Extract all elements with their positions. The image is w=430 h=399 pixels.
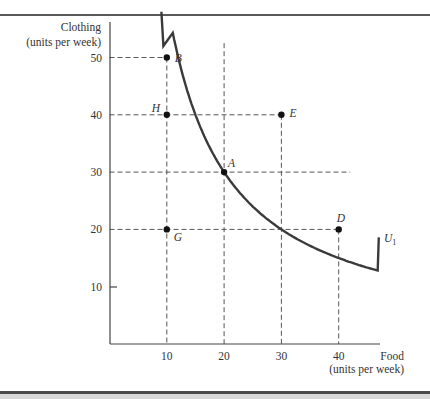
y-axis-title: Clothing (units per week) <box>26 21 101 49</box>
x-tick-label-10: 10 <box>161 350 173 362</box>
point-d-marker <box>336 226 342 232</box>
indifference-curve-u1 <box>161 12 378 271</box>
data-points: ABDEGH <box>151 52 346 244</box>
x-tick-label-20: 20 <box>218 350 230 362</box>
y-tick-label-10: 10 <box>91 281 103 293</box>
x-tick-labels: 10203040 <box>161 350 345 362</box>
point-b-marker <box>164 54 170 60</box>
y-tick-labels: 1020304050 <box>91 52 103 293</box>
y-tick-label-50: 50 <box>91 52 103 64</box>
y-axis-title-line2: (units per week) <box>26 36 101 49</box>
point-a-marker <box>221 169 227 175</box>
point-e-label: E <box>288 107 296 119</box>
x-tick-label-40: 40 <box>333 350 345 362</box>
bottom-gray-band <box>0 394 430 399</box>
y-tick-label-30: 30 <box>91 166 103 178</box>
point-h-label: H <box>151 102 161 114</box>
point-d-label: D <box>336 212 346 224</box>
x-axis-title-line2: (units per week) <box>329 363 404 376</box>
x-axis-title-line1: Food <box>380 350 404 362</box>
reference-dashed-lines <box>110 43 351 344</box>
indifference-curve-chart: 1020304050 10203040 Clothing (units per … <box>0 0 430 399</box>
y-tick-label-20: 20 <box>91 223 103 235</box>
axes <box>110 22 380 344</box>
point-h-marker <box>164 112 170 118</box>
y-tick-label-40: 40 <box>91 109 103 121</box>
point-g-label: G <box>174 231 183 243</box>
y-axis-title-line1: Clothing <box>61 21 102 34</box>
point-b-label: B <box>175 52 182 64</box>
x-tick-label-30: 30 <box>276 350 288 362</box>
point-a-label: A <box>227 157 236 169</box>
point-g-marker <box>164 226 170 232</box>
curve-label-u1: U1 <box>384 232 396 247</box>
point-e-marker <box>278 112 284 118</box>
